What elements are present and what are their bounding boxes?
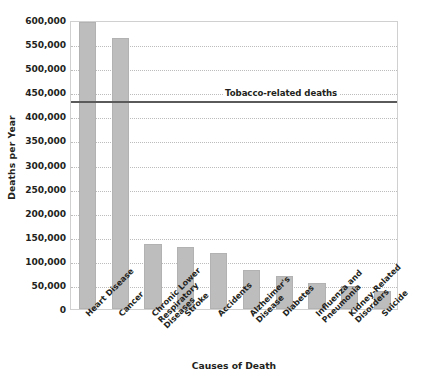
y-axis-tick-labels: 050,000100,000150,000200,000250,000300,0… — [12, 21, 66, 310]
y-axis-tick-label: 100,000 — [12, 257, 66, 267]
plot-area: Tobacco-related deaths — [70, 21, 398, 310]
tobacco-reference-label: Tobacco-related deaths — [223, 88, 339, 98]
y-axis-tick-label: 600,000 — [12, 16, 66, 26]
y-axis-tick-label: 400,000 — [12, 112, 66, 122]
plot-inner: Tobacco-related deaths — [71, 22, 397, 309]
bar-series — [71, 22, 397, 309]
y-axis-tick-label: 250,000 — [12, 185, 66, 195]
y-axis-tick-label: 0 — [12, 305, 66, 315]
bar-chart: Deaths per Year 050,000100,000150,000200… — [0, 0, 433, 383]
bar — [79, 22, 96, 309]
y-axis-tick-label: 300,000 — [12, 161, 66, 171]
y-axis-tick-label: 200,000 — [12, 209, 66, 219]
y-axis-tick-label: 50,000 — [12, 281, 66, 291]
y-axis-tick-label: 550,000 — [12, 40, 66, 50]
y-axis-tick-label: 150,000 — [12, 233, 66, 243]
tobacco-reference-line — [71, 101, 397, 103]
y-axis-tick-label: 350,000 — [12, 136, 66, 146]
x-axis-title: Causes of Death — [70, 360, 398, 371]
bar — [144, 244, 161, 309]
y-axis-tick-label: 450,000 — [12, 88, 66, 98]
y-axis-tick-label: 500,000 — [12, 64, 66, 74]
